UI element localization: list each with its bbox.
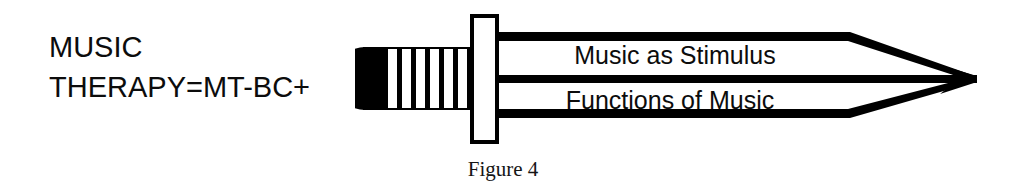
music-therapy-label: MUSIC THERAPY=MT-BC+: [49, 27, 349, 107]
sword-pommel-cap: [355, 47, 365, 110]
blade-band-label-music-as-stimulus: Music as Stimulus: [505, 43, 845, 68]
music-therapy-label-line-1: MUSIC: [49, 27, 349, 67]
figure-4-illustration: MUSIC THERAPY=MT-BC+: [0, 0, 1026, 185]
figure-caption: Figure 4: [0, 157, 1016, 181]
music-therapy-label-line-2: THERAPY=MT-BC+: [49, 67, 349, 107]
sword-crossguard-icon: [472, 16, 497, 142]
blade-band-label-functions-of-music: Functions of Music: [500, 88, 840, 113]
sword-arrow-icon: [355, 8, 985, 148]
